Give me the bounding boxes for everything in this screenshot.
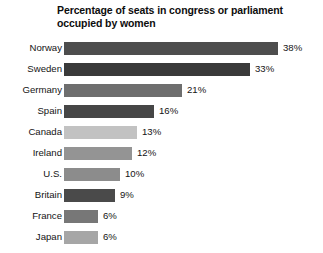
bar: [64, 126, 137, 139]
bar-fill: [64, 168, 120, 181]
bar-row: Ireland12%: [0, 146, 323, 167]
bar: [64, 231, 98, 244]
bar-fill: [64, 105, 154, 118]
bar-row: Canada13%: [0, 125, 323, 146]
bar-fill: [64, 189, 115, 202]
bar-value-label: 6%: [103, 230, 117, 244]
bar-value-label: 33%: [255, 62, 274, 76]
bar-chart: Percentage of seats in congress or parli…: [0, 0, 323, 253]
bar-fill: [64, 210, 98, 223]
bar-category-label: France: [0, 209, 62, 223]
chart-title: Percentage of seats in congress or parli…: [57, 4, 319, 30]
bar-row: Spain16%: [0, 104, 323, 125]
bar-fill: [64, 147, 132, 160]
bar-row: France6%: [0, 209, 323, 230]
bar: [64, 168, 120, 181]
bar-fill: [64, 126, 137, 139]
bar-category-label: Japan: [0, 230, 62, 244]
bar: [64, 189, 115, 202]
bar-row: Norway38%: [0, 41, 323, 62]
bar-category-label: Britain: [0, 188, 62, 202]
bar-row: Sweden33%: [0, 62, 323, 83]
bar-fill: [64, 84, 182, 97]
bar-category-label: Spain: [0, 104, 62, 118]
bar: [64, 210, 98, 223]
bar-category-label: Sweden: [0, 62, 62, 76]
bar-value-label: 12%: [137, 146, 156, 160]
bar-value-label: 21%: [187, 83, 206, 97]
bar-row: U.S.10%: [0, 167, 323, 188]
bar-value-label: 10%: [125, 167, 144, 181]
bar: [64, 105, 154, 118]
bar: [64, 42, 278, 55]
chart-plot-area: Norway38%Sweden33%Germany21%Spain16%Cana…: [0, 38, 323, 253]
bar-value-label: 38%: [283, 41, 302, 55]
bar-row: Japan6%: [0, 230, 323, 251]
bar-category-label: Canada: [0, 125, 62, 139]
bar: [64, 84, 182, 97]
bar-value-label: 6%: [103, 209, 117, 223]
bar-value-label: 9%: [120, 188, 134, 202]
bar-row: Britain9%: [0, 188, 323, 209]
bar-fill: [64, 231, 98, 244]
bar-value-label: 16%: [159, 104, 178, 118]
bar-fill: [64, 63, 250, 76]
bar-value-label: 13%: [142, 125, 161, 139]
bar: [64, 147, 132, 160]
bar-category-label: Germany: [0, 83, 62, 97]
bar-category-label: Norway: [0, 41, 62, 55]
bar-fill: [64, 42, 278, 55]
bar-category-label: U.S.: [0, 167, 62, 181]
bar-category-label: Ireland: [0, 146, 62, 160]
bar-row: Germany21%: [0, 83, 323, 104]
bar: [64, 63, 250, 76]
